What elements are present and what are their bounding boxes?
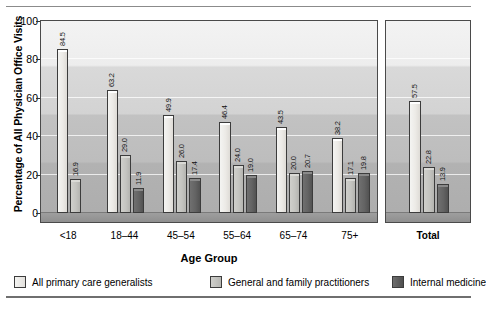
bar: 43.5: [276, 129, 287, 213]
bar-top-cap: [276, 127, 287, 130]
gridline: [41, 135, 377, 136]
bar: 13.9: [437, 186, 449, 213]
plot-area-age-groups: 84.516.963.229.011.949.926.017.446.424.0…: [40, 20, 378, 223]
y-tick-label: 0: [12, 207, 38, 219]
bar-top-cap: [423, 167, 435, 170]
y-tick-label: 20: [12, 169, 38, 181]
bar-value-label: 19.8: [359, 156, 368, 170]
bar-top-cap: [120, 155, 131, 158]
gridline: [386, 58, 470, 59]
y-tick-label: 40: [12, 130, 38, 142]
bar-value-label: 19.0: [246, 158, 255, 172]
bar-top-cap: [409, 101, 421, 104]
y-tick-label: 80: [12, 53, 38, 65]
bar: 20.0: [289, 175, 300, 213]
bar-value-label: 20.0: [289, 156, 298, 170]
bar-value-label: 49.9: [164, 98, 173, 112]
bar-value-label: 29.0: [120, 139, 129, 153]
bar: 11.9: [133, 190, 144, 213]
bar-top-cap: [246, 175, 257, 178]
legend-label: All primary care generalists: [32, 277, 153, 288]
bar: 49.9: [163, 117, 174, 213]
y-axis-ticks: 100806040200: [6, 0, 38, 312]
bar-top-cap: [133, 188, 144, 191]
x-axis-title: Age Group: [40, 252, 378, 264]
legend-swatch-icon: [14, 276, 26, 288]
legend-item[interactable]: Internal medicine: [392, 275, 486, 289]
x-tick-label: 75+: [310, 230, 390, 241]
bar: 63.2: [107, 92, 118, 213]
bar-value-label: 17.4: [190, 161, 199, 175]
bar: 20.7: [302, 173, 313, 213]
gridline: [386, 135, 470, 136]
x-tick-label: Total: [388, 230, 468, 241]
gridline: [41, 58, 377, 59]
bar: 17.1: [345, 180, 356, 213]
bar-value-label: 57.5: [410, 84, 419, 98]
bar: 46.4: [219, 124, 230, 213]
plot-floor: [41, 212, 377, 222]
bar-top-cap: [107, 90, 118, 93]
plot-floor: [386, 212, 470, 222]
gridline: [41, 174, 377, 175]
y-tick-label: 100: [12, 15, 38, 27]
bar-top-cap: [332, 138, 343, 141]
bar: 84.5: [57, 51, 68, 213]
bar-top-cap: [345, 178, 356, 181]
bar: 19.8: [358, 175, 369, 213]
bottom-divider: [6, 296, 471, 298]
bar-top-cap: [302, 171, 313, 174]
bar-top-cap: [289, 173, 300, 176]
bar-top-cap: [358, 173, 369, 176]
bar-value-label: 46.4: [220, 105, 229, 119]
legend-item[interactable]: All primary care generalists: [14, 275, 153, 289]
bar-value-label: 63.2: [107, 73, 116, 87]
bar: 17.4: [189, 180, 200, 213]
bar: 26.0: [176, 163, 187, 213]
bar-top-cap: [70, 179, 81, 182]
bar-value-label: 26.0: [177, 144, 186, 158]
bar-top-cap: [219, 122, 230, 125]
bar: 16.9: [70, 181, 81, 213]
bar: 19.0: [246, 177, 257, 213]
legend-swatch-icon: [392, 276, 404, 288]
bar-value-label: 20.7: [303, 154, 312, 168]
bar-value-label: 16.9: [71, 162, 80, 176]
bar: 57.5: [409, 103, 421, 213]
bar-top-cap: [163, 115, 174, 118]
y-tick-label: 60: [12, 92, 38, 104]
bar: 38.2: [332, 140, 343, 213]
bar-top-cap: [233, 165, 244, 168]
plot-area-total: 57.522.813.9: [385, 20, 471, 223]
bar-top-cap: [176, 161, 187, 164]
bar-value-label: 24.0: [233, 148, 242, 162]
gridline: [386, 97, 470, 98]
bar: 22.8: [423, 169, 435, 213]
legend-label: General and family practitioners: [228, 277, 369, 288]
bar-value-label: 38.2: [333, 121, 342, 135]
bar-top-cap: [189, 178, 200, 181]
bar-value-label: 22.8: [424, 150, 433, 164]
bar-value-label: 43.5: [276, 111, 285, 125]
top-divider: [6, 6, 471, 7]
bar-value-label: 11.9: [134, 172, 143, 185]
legend-item[interactable]: General and family practitioners: [210, 275, 369, 289]
legend-swatch-icon: [210, 276, 222, 288]
bar-value-label: 84.5: [58, 32, 67, 46]
bar-top-cap: [57, 49, 68, 52]
gridline: [41, 97, 377, 98]
bar: 24.0: [233, 167, 244, 213]
bar-value-label: 13.9: [438, 168, 447, 182]
bar: 29.0: [120, 157, 131, 213]
bar-value-label: 17.1: [346, 161, 355, 175]
chart-legend: All primary care generalistsGeneral and …: [14, 275, 464, 291]
legend-label: Internal medicine: [410, 277, 486, 288]
bar-top-cap: [437, 184, 449, 187]
